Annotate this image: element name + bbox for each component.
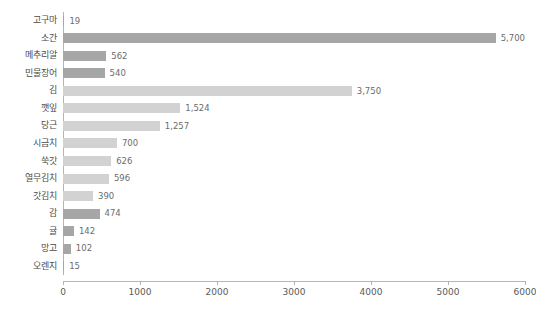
- value-label: 15: [69, 262, 80, 271]
- bar-row: 쑥갓626: [63, 153, 525, 169]
- bar-row: 오렌지15: [63, 258, 525, 274]
- value-label: 3,750: [357, 87, 381, 96]
- bar-row: 고구마19: [63, 13, 525, 29]
- bar-row: 당근1,257: [63, 118, 525, 134]
- bar-row: 열무김치596: [63, 170, 525, 186]
- x-axis-tick-label: 1000: [129, 288, 152, 297]
- x-axis-tick-label: 6000: [514, 288, 536, 297]
- x-axis-tick: [525, 281, 526, 285]
- bar: [63, 261, 64, 271]
- x-axis-tick: [448, 281, 449, 285]
- bar: [63, 156, 111, 166]
- category-label: 당근: [41, 121, 57, 130]
- x-axis-tick-label: 3000: [283, 288, 306, 297]
- category-label: 오렌지: [33, 262, 57, 271]
- bar: [63, 174, 109, 184]
- category-label: 민물장어: [25, 69, 57, 78]
- category-label: 시금치: [33, 139, 57, 148]
- x-axis-tick: [371, 281, 372, 285]
- category-label: 고구마: [33, 16, 57, 25]
- bar-row: 시금치700: [63, 135, 525, 151]
- bar: [63, 51, 106, 61]
- x-axis-tick: [140, 281, 141, 285]
- x-axis-tick: [63, 281, 64, 285]
- x-axis-tick-label: 4000: [360, 288, 383, 297]
- category-label: 깻잎: [41, 104, 57, 113]
- category-label: 쑥갓: [41, 157, 57, 166]
- value-label: 700: [122, 139, 138, 148]
- value-label: 474: [105, 209, 121, 218]
- bar: [63, 191, 93, 201]
- bar-row: 깻잎1,524: [63, 100, 525, 116]
- value-label: 1,257: [165, 122, 189, 131]
- category-label: 메추리알: [25, 51, 57, 60]
- bar-row: 갓김치390: [63, 188, 525, 204]
- x-axis-tick-label: 5000: [437, 288, 460, 297]
- value-label: 596: [114, 174, 130, 183]
- category-label: 김: [49, 86, 57, 95]
- bar: [63, 103, 180, 113]
- bar-row: 김3,750: [63, 83, 525, 99]
- value-label: 19: [69, 17, 80, 26]
- x-axis-tick: [217, 281, 218, 285]
- bar: [63, 226, 74, 236]
- bar: [63, 68, 105, 78]
- bar-rows: 고구마19소간5,700메추리알562민물장어540김3,750깻잎1,524당…: [63, 12, 525, 275]
- bar-row: 귤142: [63, 223, 525, 239]
- x-axis-tick-label: 2000: [206, 288, 229, 297]
- bar: [63, 244, 71, 254]
- value-label: 142: [79, 227, 95, 236]
- value-label: 540: [110, 69, 126, 78]
- value-label: 562: [111, 52, 127, 61]
- value-label: 1,524: [185, 104, 209, 113]
- bar: [63, 209, 100, 219]
- category-label: 소간: [41, 34, 57, 43]
- value-label: 102: [76, 244, 92, 253]
- x-axis-tick: [294, 281, 295, 285]
- category-label: 열무김치: [25, 174, 57, 183]
- plot-area: 고구마19소간5,700메추리알562민물장어540김3,750깻잎1,524당…: [63, 12, 525, 275]
- x-axis-tick-label: 0: [60, 288, 66, 297]
- bar-row: 망고102: [63, 240, 525, 256]
- value-label: 390: [98, 192, 114, 201]
- bar: [63, 121, 160, 131]
- bar: [63, 138, 117, 148]
- bar: [63, 33, 496, 43]
- category-label: 감: [49, 209, 57, 218]
- category-label: 갓김치: [33, 192, 57, 201]
- bar-row: 메추리알562: [63, 48, 525, 64]
- category-label: 망고: [41, 244, 57, 253]
- value-label: 5,700: [501, 34, 525, 43]
- value-label: 626: [116, 157, 132, 166]
- bar: [63, 86, 352, 96]
- category-label: 귤: [49, 227, 57, 236]
- bar-row: 민물장어540: [63, 65, 525, 81]
- bar-row: 감474: [63, 205, 525, 221]
- bar: [63, 16, 64, 26]
- bar-row: 소간5,700: [63, 30, 525, 46]
